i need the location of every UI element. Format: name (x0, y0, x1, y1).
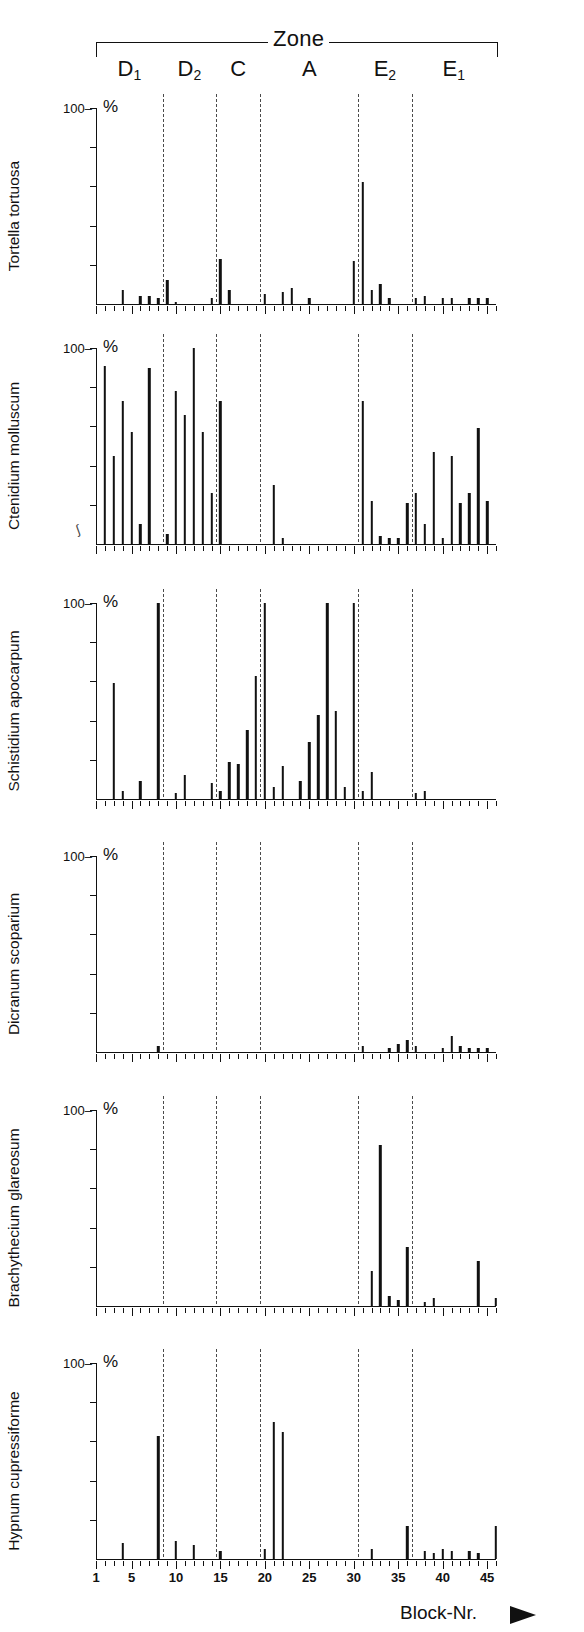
zone-divider (260, 334, 261, 542)
x-tick (96, 1054, 97, 1062)
bar (228, 290, 230, 304)
x-tick (123, 1308, 124, 1313)
x-tick (398, 306, 399, 314)
x-tick (469, 801, 470, 806)
x-tick (327, 1054, 328, 1059)
x-tick (443, 1054, 444, 1062)
x-tick (425, 306, 426, 311)
bar (166, 280, 168, 304)
zone-label-d2: D2 (167, 58, 211, 80)
zone-divider (358, 1349, 359, 1557)
bar (415, 793, 417, 799)
x-tick (380, 1308, 381, 1313)
zone-label-c: C (216, 58, 260, 80)
x-tick (487, 306, 488, 314)
bar (415, 493, 417, 544)
zone-divider (163, 1349, 164, 1557)
x-tick (434, 1054, 435, 1059)
x-tick (149, 306, 150, 311)
x-tick (220, 801, 221, 809)
x-tick (212, 801, 213, 806)
y-tick (90, 1149, 96, 1150)
plot-area: 100–% (96, 348, 496, 544)
y-tick (90, 1441, 96, 1442)
bar (495, 1298, 497, 1306)
x-tick (380, 801, 381, 806)
bar (477, 1261, 479, 1306)
zone-divider (260, 94, 261, 302)
x-tick (487, 546, 488, 554)
x-tick (105, 1561, 106, 1566)
y-axis (96, 856, 97, 1052)
x-tick (256, 1561, 257, 1566)
x-tick (274, 1561, 275, 1566)
x-tick (256, 306, 257, 311)
bar (139, 296, 141, 304)
x-tick (460, 1561, 461, 1566)
bar (210, 298, 212, 304)
bar (273, 787, 275, 799)
y-tick (90, 387, 96, 388)
bar (468, 1048, 470, 1052)
x-tick (318, 1561, 319, 1566)
bar (175, 793, 177, 799)
x-tick (478, 1054, 479, 1059)
x-tick (132, 306, 133, 314)
y-tick (90, 1402, 96, 1403)
x-tick (407, 801, 408, 806)
bar (219, 791, 221, 799)
x-tick (336, 546, 337, 551)
x-tick (114, 546, 115, 551)
figure-canvas: Zone D1D2CAE2E1 Tortella tortuosa100–%Ct… (0, 0, 584, 1632)
x-tick (292, 1308, 293, 1313)
x-tick (363, 1561, 364, 1566)
x-tick (140, 1054, 141, 1059)
x-axis (96, 1559, 496, 1560)
x-tick (452, 1308, 453, 1313)
x-tick (478, 546, 479, 551)
bar (157, 1046, 159, 1052)
species-label: Ctenidium molluscum (0, 348, 28, 564)
y-tick (90, 1013, 96, 1014)
x-tick (425, 1308, 426, 1313)
species-label: Schistidium apocarpum (0, 603, 28, 819)
x-tick (372, 1308, 373, 1313)
y-axis-max-label: 100– (63, 597, 92, 610)
zone-divider (163, 842, 164, 1050)
x-tick (300, 546, 301, 551)
x-tick-label: 10 (169, 1571, 183, 1584)
y-axis-unit-label: % (103, 846, 118, 863)
x-tick (114, 306, 115, 311)
x-tick (469, 546, 470, 551)
x-tick (274, 801, 275, 806)
bar (406, 1040, 408, 1052)
x-tick (247, 1054, 248, 1059)
x-tick (372, 801, 373, 806)
x-tick (203, 801, 204, 806)
bar (388, 1048, 390, 1052)
x-tick (496, 1054, 497, 1059)
x-tick (372, 1054, 373, 1059)
zone-divider (260, 1349, 261, 1557)
x-tick (354, 306, 355, 314)
x-tick-label: 35 (391, 1571, 405, 1584)
x-tick (389, 306, 390, 311)
bar (139, 524, 141, 544)
x-tick (238, 306, 239, 311)
x-tick (292, 801, 293, 806)
x-tick (167, 801, 168, 806)
zone-subscript: 2 (193, 67, 201, 83)
bar (477, 298, 479, 304)
x-tick (389, 801, 390, 806)
x-tick (487, 1054, 488, 1062)
y-tick (90, 934, 96, 935)
y-axis (96, 1110, 97, 1306)
bar (406, 1526, 408, 1559)
x-tick (443, 1308, 444, 1316)
bar (281, 538, 283, 544)
bar (184, 415, 186, 544)
zone-divider (260, 1096, 261, 1304)
x-tick (123, 546, 124, 551)
bar (397, 538, 399, 544)
bar (433, 452, 435, 544)
